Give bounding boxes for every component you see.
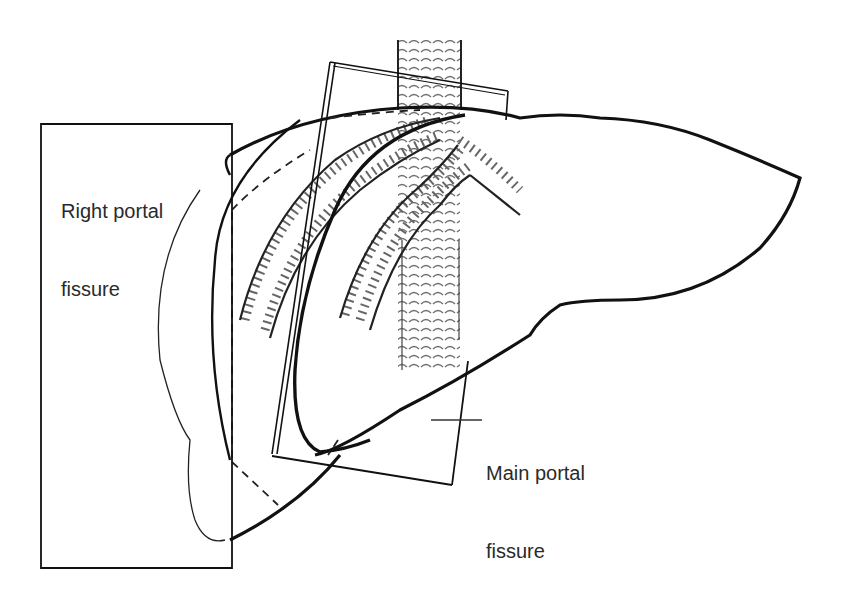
main-label-line2: fissure — [486, 538, 585, 564]
liver-outline — [158, 107, 800, 541]
right-portal-fissure-label: Right portal fissure — [61, 146, 163, 354]
liver-diagram: Right portal fissure Main portal fissure — [0, 0, 847, 613]
main-portal-fissure-label: Main portal fissure — [486, 408, 585, 613]
vena-cava — [398, 40, 461, 370]
main-label-line1: Main portal — [486, 460, 585, 486]
right-label-line2: fissure — [61, 276, 163, 302]
right-label-line1: Right portal — [61, 198, 163, 224]
